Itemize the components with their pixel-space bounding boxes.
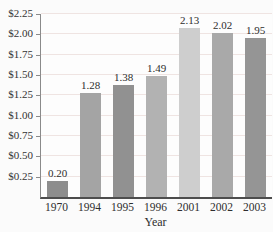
bar-value-label: 2.02 xyxy=(213,19,232,31)
bar-2002 xyxy=(212,33,233,197)
bar-slot: 1.28 xyxy=(74,14,107,197)
x-tick-label: 2002 xyxy=(205,200,238,214)
y-tick-label: $2.00 xyxy=(0,27,33,40)
x-tick-label: 2001 xyxy=(172,200,205,214)
bar-chart: $0.25$0.50$0.75$1.00$1.25$1.50$1.75$2.00… xyxy=(0,0,273,232)
y-tick-label: $1.25 xyxy=(0,88,33,101)
bar-slot: 1.38 xyxy=(107,14,140,197)
x-tick-label: 1996 xyxy=(139,200,172,214)
bar-value-label: 1.49 xyxy=(147,62,166,74)
y-axis-labels: $0.25$0.50$0.75$1.00$1.25$1.50$1.75$2.00… xyxy=(0,0,40,232)
x-tick-label: 2003 xyxy=(238,200,271,214)
y-tick-label: $1.00 xyxy=(0,109,33,122)
bar-1994 xyxy=(80,93,101,197)
bar-value-label: 1.95 xyxy=(246,24,265,36)
bar-2003 xyxy=(245,38,266,197)
y-tick-label: $0.75 xyxy=(0,129,33,142)
bar-slot: 1.49 xyxy=(140,14,173,197)
bar-value-label: 0.20 xyxy=(48,167,67,179)
x-tick-label: 1994 xyxy=(73,200,106,214)
bar-1995 xyxy=(113,85,134,197)
y-tick-label: $2.25 xyxy=(0,7,33,20)
bar-2001 xyxy=(179,28,200,197)
bar-1996 xyxy=(146,76,167,197)
y-tick-label: $1.50 xyxy=(0,68,33,81)
bar-slot: 1.95 xyxy=(239,14,272,197)
x-tick-label: 1970 xyxy=(40,200,73,214)
bar-slot: 0.20 xyxy=(41,14,74,197)
bar-1970 xyxy=(47,181,68,197)
plot-area: 0.201.281.381.492.132.021.95 xyxy=(40,14,272,199)
bar-value-label: 2.13 xyxy=(180,14,199,26)
bar-value-label: 1.28 xyxy=(81,79,100,91)
y-tick-label: $0.25 xyxy=(0,170,33,183)
y-tick-label: $0.50 xyxy=(0,149,33,162)
x-axis-labels: 1970199419951996200120022003 xyxy=(40,200,271,214)
bar-slot: 2.13 xyxy=(173,14,206,197)
x-axis-title: Year xyxy=(40,215,271,230)
bar-slot: 2.02 xyxy=(206,14,239,197)
bar-value-label: 1.38 xyxy=(114,71,133,83)
y-tick-label: $1.75 xyxy=(0,48,33,61)
x-tick-label: 1995 xyxy=(106,200,139,214)
